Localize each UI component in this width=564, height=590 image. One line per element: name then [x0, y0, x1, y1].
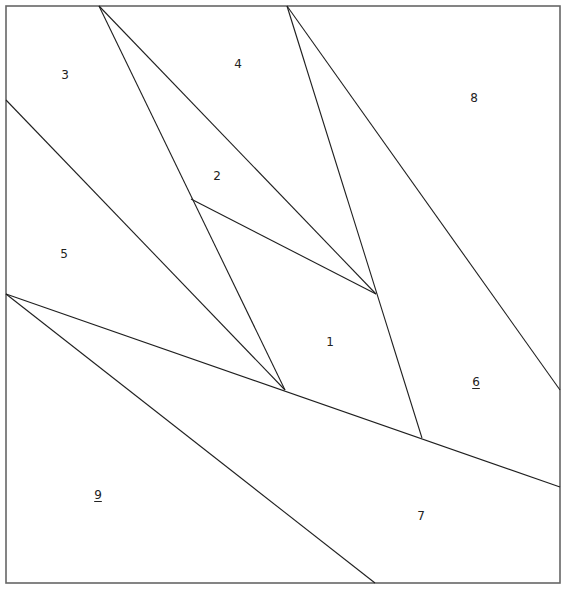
seam-line-4 [287, 6, 560, 390]
pattern-diagram [0, 0, 564, 590]
seam-line-8 [6, 294, 375, 583]
seam-line-5 [191, 199, 376, 294]
seam-line-6 [6, 100, 285, 390]
piece-label-6: 6 [472, 376, 480, 388]
piece-label-3: 3 [61, 69, 69, 81]
seam-line-2 [99, 6, 285, 390]
piece-label-4: 4 [234, 58, 242, 70]
piece-label-8: 8 [470, 92, 478, 104]
piece-label-5: 5 [60, 248, 68, 260]
seam-line-7 [6, 294, 560, 487]
seam-line-1 [99, 6, 376, 294]
piece-label-7: 7 [417, 510, 425, 522]
piece-label-2: 2 [213, 170, 221, 182]
piece-label-9: 9 [94, 489, 102, 501]
piece-label-1: 1 [326, 336, 334, 348]
